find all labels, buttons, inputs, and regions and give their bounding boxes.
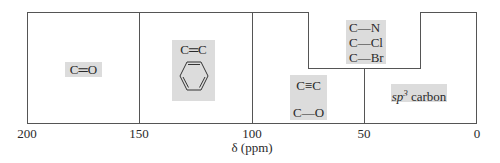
tick-50: 50: [358, 126, 371, 142]
sp3-carbon-label: sp3 carbon: [391, 84, 447, 102]
divider-100: [252, 12, 253, 124]
tick-200: 200: [17, 126, 37, 142]
alkyne-ether-group: C≡C C—O: [290, 75, 327, 120]
tick-150: 150: [129, 126, 149, 142]
ether-label: C—O: [290, 105, 327, 120]
heteroatom-group: C—N C—Cl C—Br: [346, 20, 386, 64]
alkene-aromatic-group: C═C: [172, 40, 215, 101]
sp3-suffix: carbon: [408, 89, 447, 104]
alkyne-label: C≡C: [290, 78, 327, 93]
x-axis-label: δ (ppm): [231, 140, 272, 156]
benzene-ring-icon: [177, 59, 211, 93]
sp3-prefix: sp: [392, 89, 404, 104]
tick-0: 0: [474, 126, 481, 142]
divider-150: [139, 12, 140, 124]
alkene-label: C═C: [172, 42, 215, 57]
carbonyl-label: C═O: [65, 62, 102, 77]
cn-label: C—N: [349, 20, 386, 35]
ccl-label: C—Cl: [349, 35, 386, 50]
cbr-label: C—Br: [349, 50, 386, 65]
